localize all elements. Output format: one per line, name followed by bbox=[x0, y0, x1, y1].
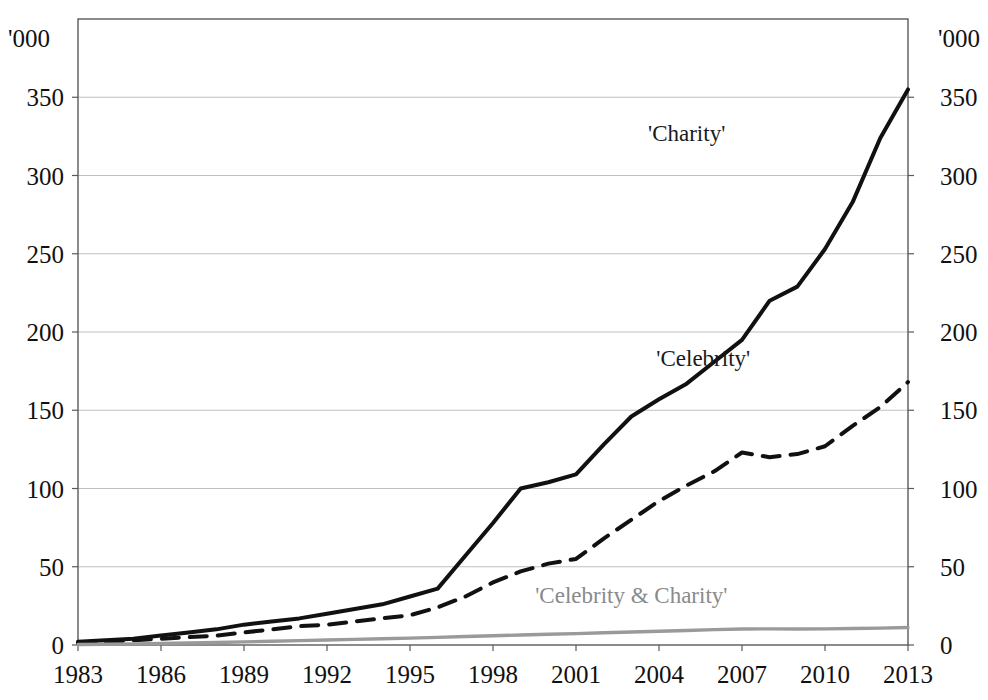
x-tick-label-1983: 1983 bbox=[53, 661, 103, 688]
y-left-tick-label-200: 200 bbox=[27, 319, 65, 346]
x-tick-label-1998: 1998 bbox=[468, 661, 518, 688]
y-left-tick-label-250: 250 bbox=[27, 241, 65, 268]
series-line-0 bbox=[78, 89, 908, 641]
x-tick-label-2007: 2007 bbox=[717, 661, 767, 688]
y-left-tick-label-50: 50 bbox=[39, 554, 64, 581]
y-right-tick-label-100: 100 bbox=[940, 476, 978, 503]
y-left-tick-label-350: 350 bbox=[27, 84, 65, 111]
y-axis-right-ticks bbox=[908, 97, 914, 645]
y-left-tick-label-150: 150 bbox=[27, 397, 65, 424]
x-tick-label-2004: 2004 bbox=[634, 661, 685, 688]
x-tick-label-2013: 2013 bbox=[883, 661, 933, 688]
y-axis-left-unit-label: '000 bbox=[8, 25, 50, 52]
y-left-tick-label-0: 0 bbox=[52, 632, 65, 659]
x-tick-label-2001: 2001 bbox=[551, 661, 601, 688]
y-right-tick-label-350: 350 bbox=[940, 84, 978, 111]
y-axis-right-unit-label: '000 bbox=[938, 25, 980, 52]
series-label-1: 'Celebrity' bbox=[656, 346, 750, 371]
x-tick-label-1992: 1992 bbox=[302, 661, 352, 688]
y-axis-left-ticks bbox=[72, 97, 78, 645]
y-right-tick-label-200: 200 bbox=[940, 319, 978, 346]
y-right-tick-label-0: 0 bbox=[940, 632, 953, 659]
x-axis-labels: 1983198619891992199519982001200420072010… bbox=[53, 661, 933, 688]
x-axis-ticks bbox=[78, 645, 908, 651]
series-annotations-group: 'Charity''Celebrity''Celebrity & Charity… bbox=[535, 121, 750, 608]
series-label-0: 'Charity' bbox=[648, 121, 725, 146]
y-right-tick-label-250: 250 bbox=[940, 241, 978, 268]
series-lines-group bbox=[78, 89, 908, 644]
chart-container: 050100150200250300350 050100150200250300… bbox=[0, 0, 988, 700]
series-label-2: 'Celebrity & Charity' bbox=[535, 583, 727, 608]
x-tick-label-2010: 2010 bbox=[800, 661, 850, 688]
y-right-tick-label-150: 150 bbox=[940, 397, 978, 424]
series-line-1 bbox=[78, 382, 908, 643]
y-right-tick-label-50: 50 bbox=[940, 554, 965, 581]
y-left-tick-label-300: 300 bbox=[27, 163, 65, 190]
x-tick-label-1989: 1989 bbox=[219, 661, 269, 688]
y-axis-left-labels: 050100150200250300350 bbox=[27, 84, 65, 659]
y-axis-right-labels: 050100150200250300350 bbox=[940, 84, 978, 659]
y-right-tick-label-300: 300 bbox=[940, 163, 978, 190]
x-tick-label-1986: 1986 bbox=[136, 661, 186, 688]
line-chart: 050100150200250300350 050100150200250300… bbox=[0, 0, 988, 700]
y-left-tick-label-100: 100 bbox=[27, 476, 65, 503]
x-tick-label-1995: 1995 bbox=[385, 661, 435, 688]
gridlines-group bbox=[78, 97, 908, 567]
